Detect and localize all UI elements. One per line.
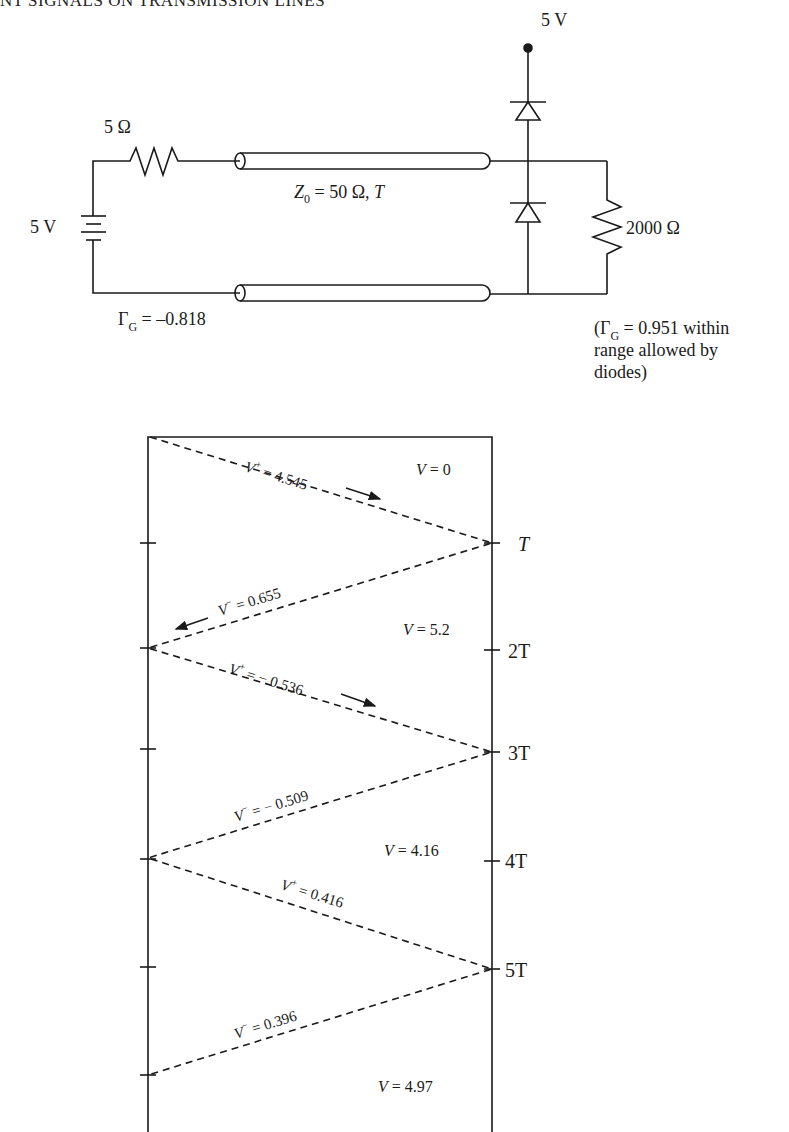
supply-voltage-label: 5 V bbox=[541, 10, 567, 30]
transmission-line-top-icon bbox=[235, 153, 607, 169]
arrow-left-icon bbox=[176, 618, 208, 629]
source-wire bbox=[93, 161, 240, 293]
lower-diode-icon bbox=[510, 203, 546, 222]
wave-label: V+ = 4.545 bbox=[243, 456, 310, 493]
svg-text:diodes): diodes) bbox=[594, 362, 647, 383]
wave-labels: V+ = 4.545 V− = 0.655 V+ = − 0.536 V− = … bbox=[215, 456, 347, 1042]
bounce-diagram bbox=[140, 437, 500, 1132]
wave-path bbox=[148, 437, 492, 1075]
upper-diode-icon bbox=[510, 102, 546, 120]
wave-label: V+ = 0.416 bbox=[279, 874, 347, 911]
line-impedance-label: Z0 = 50 Ω, T bbox=[294, 182, 386, 206]
load-voltage-label: V = 5.2 bbox=[403, 621, 450, 638]
wave-label: V− = − 0.509 bbox=[231, 784, 310, 825]
svg-text:range allowed by: range allowed by bbox=[594, 340, 718, 360]
wave-label: V+ = − 0.536 bbox=[227, 658, 306, 699]
load-reflection-note: (ΓG = 0.951 within range allowed by diod… bbox=[594, 318, 729, 383]
svg-text:2T: 2T bbox=[508, 640, 530, 662]
arrow-right-icon bbox=[341, 694, 375, 706]
load-voltage-label: V = 0 bbox=[416, 461, 451, 478]
source-voltage-label: 5 V bbox=[30, 217, 56, 237]
arrow-right-icon bbox=[346, 488, 380, 499]
transmission-line-bottom-icon bbox=[235, 285, 607, 301]
load-voltage-labels: V = 0 V = 5.2 V = 4.16 V = 4.97 bbox=[378, 461, 451, 1095]
svg-text:T: T bbox=[518, 533, 531, 555]
source-reflection-label: ΓG = –0.818 bbox=[118, 309, 206, 334]
circuit bbox=[81, 44, 621, 301]
load-voltage-label: V = 4.97 bbox=[378, 1078, 433, 1095]
diagram-canvas: 5 Ω 5 V 5 V 2000 Ω Z0 = 50 Ω, T ΓG = –0.… bbox=[0, 0, 789, 1132]
bounce-frame bbox=[148, 437, 492, 1132]
wave-label: V− = 0.655 bbox=[215, 582, 282, 619]
load-resistance-label: 2000 Ω bbox=[626, 218, 680, 238]
source-resistor-icon bbox=[124, 148, 240, 175]
wave-label: V− = 0.396 bbox=[231, 1005, 299, 1042]
source-resistance-label: 5 Ω bbox=[104, 117, 131, 137]
svg-text:3T: 3T bbox=[508, 742, 530, 764]
time-labels: T 2T 3T 4T 5T bbox=[505, 533, 531, 981]
load-resistor-icon bbox=[593, 161, 621, 294]
svg-text:5T: 5T bbox=[505, 959, 527, 981]
battery-icon bbox=[81, 216, 106, 240]
svg-text:4T: 4T bbox=[505, 850, 527, 872]
load-voltage-label: V = 4.16 bbox=[384, 842, 439, 859]
